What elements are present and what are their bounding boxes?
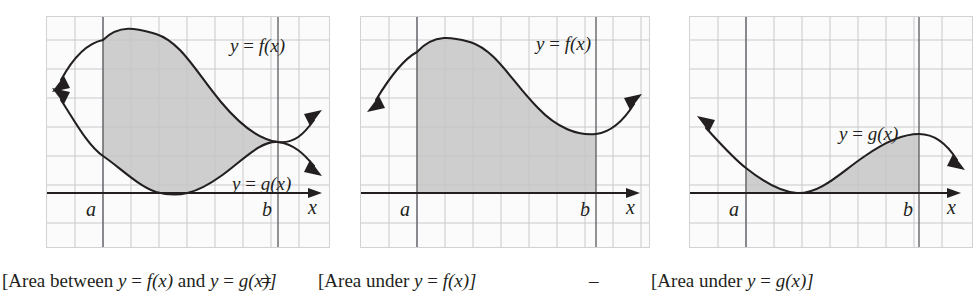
curve-label-g: y = g(x) — [230, 173, 291, 195]
tick-label-a: a — [400, 198, 410, 220]
axis-label-x: x — [625, 196, 635, 218]
panel-2-svg: y = f(x) a b x — [360, 16, 650, 248]
panel-area-under-g: y = g(x) a b x — [689, 16, 973, 248]
tick-label-a: a — [86, 198, 96, 220]
curve-label-f: y = f(x) — [228, 35, 285, 57]
caption-minus-sign: – — [589, 271, 599, 290]
panel-row: y = f(x) y = g(x) a b x — [0, 0, 977, 255]
curve-label-f: y = f(x) — [534, 33, 591, 55]
caption-equals-sign: = — [261, 271, 272, 290]
axis-label-x: x — [307, 196, 317, 218]
panel-1-svg: y = f(x) y = g(x) a b x — [46, 16, 330, 248]
area-between-curves-figure: y = f(x) y = g(x) a b x — [0, 0, 977, 307]
panel-3-svg: y = g(x) a b x — [689, 16, 973, 248]
tick-label-b: b — [580, 198, 590, 220]
caption-area-under-g: [Area under y = g(x)] — [651, 271, 814, 290]
caption-row: [Area between y = f(x) and y = g(x)] = [… — [0, 258, 977, 304]
tick-label-a: a — [729, 198, 739, 220]
caption-area-between: [Area between y = f(x) and y = g(x)] — [2, 271, 277, 290]
tick-label-b: b — [262, 198, 272, 220]
panel-area-between-f-and-g: y = f(x) y = g(x) a b x — [46, 16, 330, 248]
panel-area-under-f: y = f(x) a b x — [360, 16, 650, 248]
caption-area-under-f: [Area under y = f(x)] — [318, 271, 476, 290]
curve-label-g: y = g(x) — [837, 123, 898, 145]
tick-label-b: b — [903, 198, 913, 220]
axis-label-x: x — [946, 196, 956, 218]
